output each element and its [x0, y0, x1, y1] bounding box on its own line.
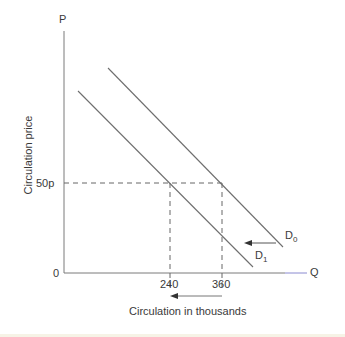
y-tick-50p: 50p: [36, 178, 54, 189]
origin-label: 0: [53, 268, 59, 279]
demand-curve-d0: [108, 68, 283, 247]
d1-label-main: D: [255, 249, 263, 261]
d1-label: D1: [255, 250, 267, 261]
d0-label: D0: [285, 230, 297, 241]
d1-label-sub: 1: [263, 255, 267, 264]
demand-curve-d1: [78, 91, 253, 267]
shift-arrow-head: [244, 240, 252, 246]
d0-label-sub: 0: [293, 235, 297, 244]
x-tick-360: 360: [212, 279, 230, 290]
d0-label-main: D: [285, 229, 293, 241]
y-axis-title: Circulation price: [23, 116, 34, 195]
x-tick-240: 240: [160, 279, 178, 290]
x-axis-title: Circulation in thousands: [129, 306, 246, 317]
x-axis-symbol: Q: [310, 267, 319, 278]
quantity-arrow-head: [170, 293, 178, 299]
y-axis-symbol: P: [59, 14, 66, 25]
